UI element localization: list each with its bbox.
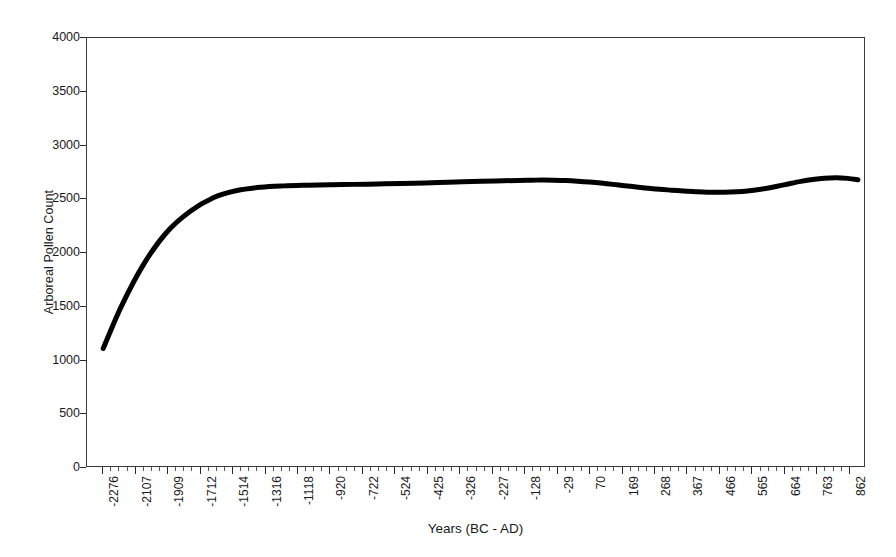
x-axis-minor-tick-mark: [800, 467, 801, 471]
x-axis-tick-label: -1316: [270, 476, 284, 507]
x-axis-tick-mark: [816, 467, 817, 474]
x-axis-minor-tick-mark: [630, 467, 631, 471]
x-axis-tick-mark: [589, 467, 590, 474]
x-axis-minor-tick-mark: [484, 467, 485, 471]
y-axis-tick-label: 2000: [42, 245, 80, 259]
x-axis-tick-label: 169: [627, 476, 641, 496]
x-axis-tick-mark: [167, 467, 168, 474]
x-axis-minor-tick-mark: [776, 467, 777, 471]
x-axis-minor-tick-mark: [703, 467, 704, 471]
x-axis-tick-mark: [459, 467, 460, 474]
x-axis-tick-label: -128: [529, 476, 543, 500]
x-axis-tick-marks: [86, 467, 865, 475]
x-axis-minor-tick-mark: [824, 467, 825, 471]
x-axis-minor-tick-mark: [443, 467, 444, 471]
x-axis-tick-label: -2276: [107, 476, 121, 507]
x-axis-tick-mark: [654, 467, 655, 474]
x-axis-minor-tick-mark: [338, 467, 339, 471]
x-axis-minor-tick-mark: [581, 467, 582, 471]
x-axis-minor-tick-mark: [354, 467, 355, 471]
x-axis-minor-tick-mark: [605, 467, 606, 471]
pollen-count-chart: Arboreal Pollen Count 050010001500200025…: [0, 0, 896, 557]
x-axis-tick-mark: [329, 467, 330, 474]
x-axis-minor-tick-mark: [208, 467, 209, 471]
x-axis-tick-mark: [102, 467, 103, 474]
x-axis-minor-tick-mark: [500, 467, 501, 471]
x-axis-tick-mark: [849, 467, 850, 474]
x-axis-minor-tick-mark: [159, 467, 160, 471]
x-axis-tick-mark: [557, 467, 558, 474]
x-axis-tick-mark: [719, 467, 720, 474]
x-axis-minor-tick-mark: [597, 467, 598, 471]
x-axis-minor-tick-mark: [727, 467, 728, 471]
x-axis-tick-label: -524: [399, 476, 413, 500]
x-axis-tick-mark: [297, 467, 298, 474]
y-axis-tick-label: 0: [42, 460, 80, 474]
x-axis-tick-mark: [784, 467, 785, 474]
x-axis-tick-mark: [524, 467, 525, 474]
x-axis-minor-tick-mark: [281, 467, 282, 471]
x-axis-minor-tick-mark: [127, 467, 128, 471]
x-axis-tick-label: -920: [334, 476, 348, 500]
x-axis-minor-tick-mark: [695, 467, 696, 471]
x-axis-tick-mark: [622, 467, 623, 474]
x-axis-minor-tick-mark: [110, 467, 111, 471]
x-axis-minor-tick-mark: [378, 467, 379, 471]
x-axis-minor-tick-mark: [808, 467, 809, 471]
x-axis-tick-label: -1712: [205, 476, 219, 507]
x-axis-minor-tick-mark: [565, 467, 566, 471]
x-axis-minor-tick-mark: [841, 467, 842, 471]
x-axis-tick-label: -1514: [237, 476, 251, 507]
x-axis-tick-mark: [394, 467, 395, 474]
x-axis-minor-tick-mark: [670, 467, 671, 471]
x-axis-minor-tick-mark: [386, 467, 387, 471]
x-axis-tick-label: 862: [854, 476, 868, 496]
x-axis-minor-tick-mark: [760, 467, 761, 471]
series-path: [103, 178, 858, 349]
x-axis-minor-tick-mark: [305, 467, 306, 471]
x-axis-tick-mark: [265, 467, 266, 474]
x-axis-minor-tick-mark: [411, 467, 412, 471]
x-axis-title: Years (BC - AD): [86, 521, 865, 536]
x-axis-minor-tick-mark: [151, 467, 152, 471]
plot-area: [86, 37, 865, 467]
y-axis-tick-label: 1000: [42, 353, 80, 367]
x-axis-minor-tick-mark: [370, 467, 371, 471]
x-axis-minor-tick-mark: [191, 467, 192, 471]
x-axis-minor-tick-mark: [613, 467, 614, 471]
x-axis-minor-tick-mark: [516, 467, 517, 471]
x-axis-minor-tick-mark: [833, 467, 834, 471]
y-axis-tick-label: 500: [42, 406, 80, 420]
x-axis-minor-tick-mark: [321, 467, 322, 471]
x-axis-minor-tick-mark: [476, 467, 477, 471]
x-axis-minor-tick-mark: [678, 467, 679, 471]
x-axis-tick-mark: [492, 467, 493, 474]
x-axis-minor-tick-mark: [638, 467, 639, 471]
x-axis-tick-mark: [135, 467, 136, 474]
x-axis-tick-label: 763: [821, 476, 835, 496]
y-axis-tick-label: 4000: [42, 30, 80, 44]
x-axis-minor-tick-mark: [313, 467, 314, 471]
x-axis-tick-mark: [200, 467, 201, 474]
x-axis-minor-tick-mark: [240, 467, 241, 471]
x-axis-minor-tick-mark: [216, 467, 217, 471]
x-axis-tick-label: 565: [756, 476, 770, 496]
x-axis-minor-tick-mark: [540, 467, 541, 471]
x-axis-minor-tick-mark: [451, 467, 452, 471]
x-axis-minor-tick-mark: [549, 467, 550, 471]
x-axis-tick-mark: [686, 467, 687, 474]
x-axis-minor-tick-mark: [256, 467, 257, 471]
x-axis-tick-label: 268: [659, 476, 673, 496]
x-axis-minor-tick-mark: [711, 467, 712, 471]
x-axis-tick-label: -2107: [140, 476, 154, 507]
x-axis-tick-labels: -2276-2107-1909-1712-1514-1316-1118-920-…: [86, 476, 865, 520]
x-axis-tick-label: 664: [789, 476, 803, 496]
x-axis-minor-tick-mark: [346, 467, 347, 471]
x-axis-tick-mark: [232, 467, 233, 474]
x-axis-minor-tick-mark: [646, 467, 647, 471]
x-axis-minor-tick-mark: [402, 467, 403, 471]
x-axis-tick-mark: [362, 467, 363, 474]
x-axis-tick-label: 70: [594, 476, 608, 489]
x-axis-minor-tick-mark: [743, 467, 744, 471]
x-axis-tick-label: -425: [432, 476, 446, 500]
